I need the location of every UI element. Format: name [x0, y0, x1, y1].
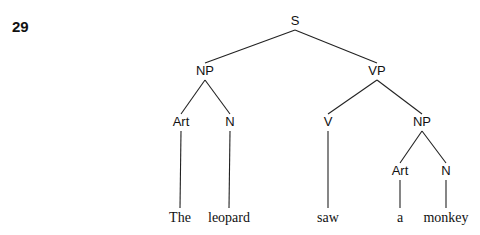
tree-edge-vp-np2: [377, 80, 422, 114]
node-s: S: [291, 13, 300, 28]
node-vp: VP: [368, 63, 385, 78]
tree-edge-np1-n1: [205, 80, 230, 114]
syntax-tree: SNPVPArtNVNPArtNTheleopardsawamonkey: [0, 0, 480, 235]
node-art1: Art: [173, 114, 190, 129]
node-v: V: [324, 114, 333, 129]
tree-edge-np2-art2: [400, 131, 422, 163]
tree-edge-art1-w1: [180, 131, 181, 208]
word-w2: leopard: [208, 210, 250, 225]
node-n1: N: [225, 114, 234, 129]
tree-edge-np2-n2: [422, 131, 446, 163]
node-np2: NP: [413, 114, 431, 129]
node-n2: N: [441, 163, 450, 178]
node-np1: NP: [196, 63, 214, 78]
word-w5: monkey: [423, 210, 468, 225]
word-w1: The: [169, 210, 191, 225]
word-w4: a: [397, 210, 404, 225]
tree-edge-s-np1: [205, 30, 295, 63]
tree-edge-np1-art1: [181, 80, 205, 114]
tree-edge-n1-w2: [229, 131, 230, 208]
tree-edge-vp-v: [328, 80, 377, 114]
tree-edge-s-vp: [295, 30, 377, 63]
word-w3: saw: [317, 210, 340, 225]
node-art2: Art: [392, 163, 409, 178]
